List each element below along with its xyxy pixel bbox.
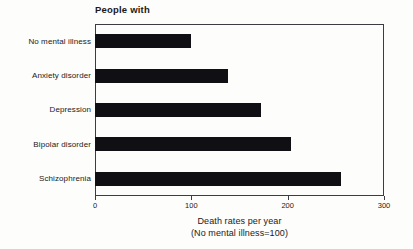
category-label: No mental illness — [28, 24, 91, 58]
bar — [95, 69, 228, 83]
bar — [95, 103, 261, 117]
bar-row — [95, 93, 384, 127]
bar — [95, 34, 191, 48]
x-axis-title: Death rates per year (No mental illness=… — [95, 216, 384, 239]
x-axis-title-line2: (No mental illness=100) — [95, 228, 384, 240]
x-tick-label: 300 — [378, 201, 391, 210]
bar-row — [95, 127, 384, 161]
x-tick-label: 0 — [93, 201, 97, 210]
x-axis-title-line1: Death rates per year — [95, 216, 384, 228]
x-tick-mark — [288, 196, 289, 200]
x-tick-label: 100 — [185, 201, 198, 210]
x-tick-label: 200 — [281, 201, 294, 210]
bar — [95, 137, 291, 151]
bar-row — [95, 58, 384, 92]
bar — [95, 172, 341, 186]
chart-title: People with — [95, 4, 150, 15]
chart-container: People with No mental illnessAnxiety dis… — [0, 0, 413, 249]
category-label: Depression — [50, 93, 91, 127]
bar-row — [95, 24, 384, 58]
bar-row — [95, 162, 384, 196]
x-tick-mark — [191, 196, 192, 200]
category-label: Anxiety disorder — [32, 58, 91, 92]
x-tick-mark — [95, 196, 96, 200]
category-label: Bipolar disorder — [33, 127, 91, 161]
x-axis: 0100200300 — [95, 196, 384, 216]
bars-layer — [95, 24, 384, 196]
category-label: Schizophrenia — [39, 162, 91, 196]
category-axis-labels: No mental illnessAnxiety disorderDepress… — [0, 24, 91, 196]
x-tick-mark — [384, 196, 385, 200]
